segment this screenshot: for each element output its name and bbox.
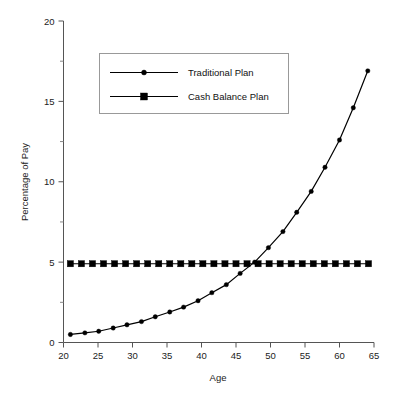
square-marker xyxy=(200,261,206,267)
x-tick-label-25: 25 xyxy=(93,350,104,361)
square-marker xyxy=(354,261,360,267)
square-marker xyxy=(178,261,184,267)
circle-marker xyxy=(309,189,313,193)
circle-marker xyxy=(153,315,157,319)
square-marker xyxy=(156,261,162,267)
circle-marker xyxy=(68,332,72,336)
circle-marker xyxy=(125,323,129,327)
circle-marker xyxy=(366,69,370,73)
x-tick-label-65: 65 xyxy=(369,350,380,361)
square-marker xyxy=(365,261,371,267)
x-axis-title: Age xyxy=(210,372,227,383)
square-marker xyxy=(255,261,261,267)
y-axis-title: Percentage of Pay xyxy=(19,143,30,221)
circle-marker xyxy=(281,229,285,233)
circle-marker xyxy=(83,331,87,335)
chart-legend[interactable]: Traditional Plan Cash Balance Plan xyxy=(100,54,289,114)
square-marker xyxy=(299,261,305,267)
circle-marker xyxy=(351,106,355,110)
square-marker xyxy=(266,261,272,267)
x-tick-label-45: 45 xyxy=(231,350,242,361)
circle-marker xyxy=(96,329,100,333)
circle-marker xyxy=(266,245,270,249)
y-tick-label-15: 15 xyxy=(44,96,55,107)
circle-marker xyxy=(224,282,228,286)
square-marker xyxy=(211,261,217,267)
square-marker xyxy=(288,261,294,267)
y-tick-label-5: 5 xyxy=(49,257,54,268)
square-marker xyxy=(233,261,239,267)
legend-label-traditional-plan: Traditional Plan xyxy=(188,67,254,78)
x-tick-label-30: 30 xyxy=(127,350,138,361)
x-tick-label-40: 40 xyxy=(196,350,207,361)
square-marker xyxy=(145,261,151,267)
square-marker xyxy=(167,261,173,267)
square-marker xyxy=(277,261,283,267)
square-marker xyxy=(89,261,95,267)
circle-marker-icon xyxy=(142,70,147,75)
chart-canvas: 05101520 20253035404550556065 Traditiona… xyxy=(0,0,393,399)
square-marker xyxy=(100,261,106,267)
square-marker xyxy=(343,261,349,267)
y-tick-label-0: 0 xyxy=(49,337,54,348)
square-marker xyxy=(67,261,73,267)
circle-marker xyxy=(210,290,214,294)
x-tick-label-60: 60 xyxy=(334,350,345,361)
circle-marker xyxy=(323,165,327,169)
legend-box xyxy=(100,54,289,114)
circle-marker xyxy=(238,271,242,275)
circle-marker xyxy=(337,138,341,142)
legend-label-cash-balance-plan: Cash Balance Plan xyxy=(188,91,269,102)
square-marker-icon xyxy=(141,93,148,100)
square-marker xyxy=(332,261,338,267)
x-tick-label-20: 20 xyxy=(58,350,69,361)
circle-marker xyxy=(111,326,115,330)
x-tick-label-35: 35 xyxy=(162,350,173,361)
square-marker xyxy=(189,261,195,267)
y-tick-label-20: 20 xyxy=(44,16,55,27)
square-marker xyxy=(134,261,140,267)
circle-marker xyxy=(295,210,299,214)
circle-marker xyxy=(168,310,172,314)
y-tick-label-10: 10 xyxy=(44,176,55,187)
x-tick-label-55: 55 xyxy=(300,350,311,361)
circle-marker xyxy=(181,305,185,309)
square-marker xyxy=(123,261,129,267)
square-marker xyxy=(310,261,316,267)
circle-marker xyxy=(196,299,200,303)
circle-marker xyxy=(139,319,143,323)
square-marker xyxy=(111,261,117,267)
square-marker xyxy=(222,261,228,267)
x-tick-label-50: 50 xyxy=(265,350,276,361)
chart-figure: 05101520 20253035404550556065 Traditiona… xyxy=(0,0,393,399)
square-marker xyxy=(78,261,84,267)
square-marker xyxy=(321,261,327,267)
square-marker xyxy=(244,261,250,267)
